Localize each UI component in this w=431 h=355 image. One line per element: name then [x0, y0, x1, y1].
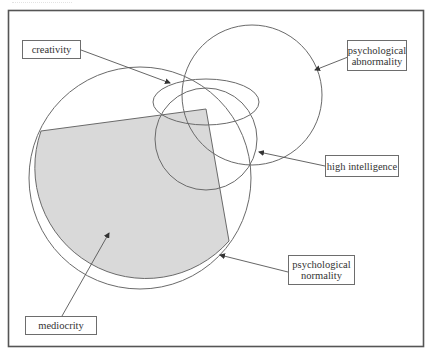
abnormality-label-line1: psychological — [348, 45, 406, 56]
abnormality-label: psychological abnormality — [347, 40, 407, 71]
creativity-arrow — [81, 50, 170, 83]
abnormality-label-line2: abnormality — [352, 56, 403, 67]
abnormality-arrow — [315, 57, 348, 70]
creativity-label-text: creativity — [32, 44, 72, 55]
high-intelligence-arrow — [259, 152, 325, 166]
mediocrity-region — [35, 109, 229, 278]
normality-arrow — [220, 255, 288, 272]
high-intelligence-label: high intelligence — [325, 155, 399, 177]
mediocrity-label-text: mediocrity — [38, 320, 84, 331]
creativity-label: creativity — [22, 40, 81, 59]
mediocrity-label: mediocrity — [25, 316, 97, 335]
normality-label-line1: psychological — [292, 259, 350, 270]
high-intelligence-label-text: high intelligence — [327, 161, 397, 172]
normality-label-line2: normality — [301, 270, 342, 281]
normality-label: psychological normality — [288, 255, 355, 285]
